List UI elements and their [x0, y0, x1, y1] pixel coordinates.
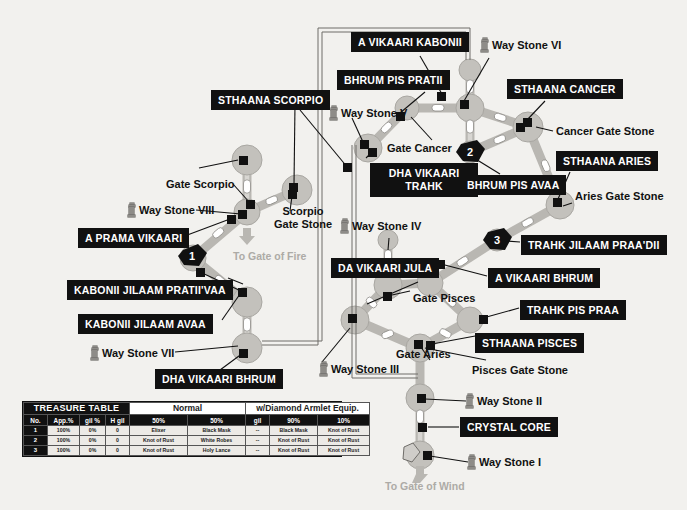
- scorpio-gate-stone-line1: Scorpio: [283, 205, 324, 217]
- label-bhrum-pis-avaa[interactable]: BHRUM PIS AVAA: [461, 176, 565, 194]
- label-da-vikaari-jula[interactable]: DA VIKAARI JULA: [332, 259, 438, 277]
- way-stone-icon: [91, 346, 98, 360]
- cell-d90: Black Mask: [270, 426, 318, 436]
- col-diamond-gil: gil: [246, 415, 270, 426]
- way-stone-3-text: Way Stone III: [331, 363, 399, 375]
- col-normal-50a: 50%: [130, 415, 188, 426]
- cell-n50a: Elixer: [130, 426, 188, 436]
- cell-no: 1: [24, 426, 48, 436]
- label-way-stone-4[interactable]: Way Stone IV: [341, 219, 421, 233]
- label-way-stone-2[interactable]: Way Stone II: [466, 394, 542, 408]
- way-stone-4-text: Way Stone IV: [352, 220, 421, 232]
- label-crystal-core[interactable]: CRYSTAL CORE: [461, 418, 557, 436]
- group-diamond: w/Diamond Armlet Equip.: [246, 403, 370, 415]
- col-gilpct: gil %: [80, 415, 106, 426]
- giruvegan-map-page: .pth{stroke:#b9b7b2;stroke-width:9;fill:…: [0, 0, 687, 510]
- way-stone-icon: [320, 362, 327, 376]
- cell-n50a: Knot of Rust: [130, 436, 188, 446]
- label-gate-pisces[interactable]: Gate Pisces: [413, 292, 475, 305]
- label-a-vikaari-bhrum[interactable]: A VIKAARI BHRUM: [489, 269, 599, 287]
- label-kabonii-jilaam-avaa[interactable]: KABONII JILAAM AVAA: [79, 315, 212, 333]
- cell-d10: Knot of Rust: [318, 446, 370, 456]
- label-gate-aries[interactable]: Gate Aries: [396, 348, 451, 361]
- cell-n50a: Knot of Rust: [130, 446, 188, 456]
- scorpio-gate-stone-line2: Gate Stone: [274, 218, 332, 230]
- cell-hgil: 0: [106, 426, 130, 436]
- col-diamond-90: 90%: [270, 415, 318, 426]
- svg-text:3: 3: [494, 234, 500, 246]
- way-stone-8-text: Way Stone VIII: [139, 204, 214, 216]
- treasure-table-title: TREASURE TABLE: [24, 403, 130, 415]
- way-stone-5-text: Way Stone V: [341, 107, 407, 119]
- label-sthaana-cancer[interactable]: STHAANA CANCER: [508, 80, 622, 98]
- cell-dgil: --: [246, 426, 270, 436]
- way-stone-icon: [341, 219, 348, 233]
- label-sthaana-aries[interactable]: STHAANA ARIES: [557, 152, 657, 170]
- label-way-stone-1[interactable]: Way Stone I: [468, 455, 541, 469]
- label-aries-gate-stone[interactable]: Aries Gate Stone: [575, 190, 664, 203]
- col-app: App.%: [48, 415, 80, 426]
- way-stone-icon: [466, 394, 473, 408]
- cell-d90: Knot of Rust: [270, 436, 318, 446]
- label-trahk-pis-praa[interactable]: TRAHK PIS PRAA: [521, 301, 625, 319]
- cell-gilpct: 0%: [80, 426, 106, 436]
- label-a-vikaari-kabonii[interactable]: A VIKAARI KABONII: [352, 33, 468, 51]
- way-stone-1-text: Way Stone I: [479, 456, 541, 468]
- way-stone-7-text: Way Stone VII: [102, 347, 174, 359]
- col-hgil: H gil: [106, 415, 130, 426]
- treasure-table-column-header: No. App.% gil % H gil 50% 50% gil 90% 10…: [24, 415, 370, 426]
- label-dha-vikaari-bhrum[interactable]: DHA VIKAARI BHRUM: [156, 370, 282, 388]
- cell-app: 100%: [48, 436, 80, 446]
- col-diamond-10: 10%: [318, 415, 370, 426]
- table-row: 3 100% 0% 0 Knot of Rust Holy Lance -- K…: [24, 446, 370, 456]
- cell-dgil: --: [246, 436, 270, 446]
- svg-text:1: 1: [189, 250, 195, 262]
- label-to-gate-of-fire: To Gate of Fire: [233, 250, 306, 262]
- cell-no: 3: [24, 446, 48, 456]
- way-stone-icon: [330, 106, 337, 120]
- label-gate-scorpio[interactable]: Gate Scorpio: [166, 178, 234, 191]
- label-pisces-gate-stone[interactable]: Pisces Gate Stone: [472, 364, 568, 377]
- label-kabonii-jilaam-pratiivaa[interactable]: KABONII JILAAM PRATII'VAA: [68, 281, 232, 299]
- label-to-gate-of-wind: To Gate of Wind: [385, 480, 465, 492]
- label-gate-cancer[interactable]: Gate Cancer: [387, 142, 452, 155]
- label-way-stone-3[interactable]: Way Stone III: [320, 362, 399, 376]
- label-cancer-gate-stone[interactable]: Cancer Gate Stone: [556, 125, 654, 138]
- label-way-stone-5[interactable]: Way Stone V: [330, 106, 407, 120]
- cell-gilpct: 0%: [80, 436, 106, 446]
- way-stone-6-text: Way Stone VI: [492, 39, 561, 51]
- cell-dgil: --: [246, 446, 270, 456]
- cell-d10: Knot of Rust: [318, 426, 370, 436]
- label-sthaana-scorpio[interactable]: STHAANA SCORPIO: [212, 91, 329, 109]
- way-stone-icon: [128, 203, 135, 217]
- col-no: No.: [24, 415, 48, 426]
- way-stone-2-text: Way Stone II: [477, 395, 542, 407]
- treasure-table: TREASURE TABLE Normal w/Diamond Armlet E…: [22, 401, 342, 457]
- label-sthaana-pisces[interactable]: STHAANA PISCES: [476, 334, 583, 352]
- col-normal-50b: 50%: [188, 415, 246, 426]
- cell-hgil: 0: [106, 446, 130, 456]
- way-stone-icon: [481, 38, 488, 52]
- label-way-stone-7[interactable]: Way Stone VII: [91, 346, 174, 360]
- cell-hgil: 0: [106, 436, 130, 446]
- way-stone-icon: [468, 455, 475, 469]
- group-normal: Normal: [130, 403, 246, 415]
- label-trahk-jilaam-praadii[interactable]: TRAHK JILAAM PRAA'DII: [522, 236, 666, 254]
- label-bhrum-pis-pratii[interactable]: BHRUM PIS PRATII: [338, 71, 449, 89]
- treasure-table-group-header: TREASURE TABLE Normal w/Diamond Armlet E…: [24, 403, 370, 415]
- cell-n50b: Holy Lance: [188, 446, 246, 456]
- svg-text:2: 2: [467, 146, 473, 158]
- table-row: 2 100% 0% 0 Knot of Rust White Robes -- …: [24, 436, 370, 446]
- cell-app: 100%: [48, 446, 80, 456]
- cell-gilpct: 0%: [80, 446, 106, 456]
- cell-d90: Knot of Rust: [270, 446, 318, 456]
- table-row: 1 100% 0% 0 Elixer Black Mask -- Black M…: [24, 426, 370, 436]
- label-scorpio-gate-stone[interactable]: ScorpioGate Stone: [272, 205, 334, 231]
- cell-n50b: White Robes: [188, 436, 246, 446]
- label-way-stone-6[interactable]: Way Stone VI: [481, 38, 561, 52]
- cell-app: 100%: [48, 426, 80, 436]
- cell-d10: Knot of Rust: [318, 436, 370, 446]
- cell-no: 2: [24, 436, 48, 446]
- label-a-prama-vikaari[interactable]: A PRAMA VIKAARI: [79, 229, 188, 247]
- label-way-stone-8[interactable]: Way Stone VIII: [128, 203, 214, 217]
